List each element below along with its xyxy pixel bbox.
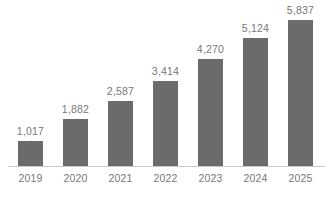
bar[interactable] [198, 59, 223, 166]
x-tick-label: 2019 [8, 172, 53, 184]
bar-group: 5,124 [233, 0, 278, 167]
bar[interactable] [18, 141, 43, 166]
bars-layer: 1,017 1,882 2,587 3,414 4,270 5,124 [0, 0, 333, 167]
bar-value-label: 5,837 [278, 4, 323, 16]
bar-group: 5,837 [278, 0, 323, 167]
bar-group: 2,587 [98, 0, 143, 167]
plot-area: 1,017 1,882 2,587 3,414 4,270 5,124 [0, 0, 333, 197]
bar-value-label: 1,017 [8, 125, 53, 137]
bar-value-label: 5,124 [233, 22, 278, 34]
bar[interactable] [243, 38, 268, 166]
x-tick-label: 2020 [53, 172, 98, 184]
bar-value-label: 4,270 [188, 43, 233, 55]
bar-group: 3,414 [143, 0, 188, 167]
x-tick-label: 2021 [98, 172, 143, 184]
x-tick-label: 2025 [278, 172, 323, 184]
x-tick-label: 2022 [143, 172, 188, 184]
bar-value-label: 2,587 [98, 85, 143, 97]
bar[interactable] [63, 119, 88, 166]
bar-group: 1,882 [53, 0, 98, 167]
bar-chart: 1,017 1,882 2,587 3,414 4,270 5,124 [0, 0, 333, 197]
bar[interactable] [108, 101, 133, 166]
bar[interactable] [288, 20, 313, 166]
bar-group: 4,270 [188, 0, 233, 167]
bar[interactable] [153, 81, 178, 166]
x-axis-tick-labels: 2019 2020 2021 2022 2023 2024 2025 [0, 170, 333, 197]
x-tick-label: 2024 [233, 172, 278, 184]
bar-value-label: 1,882 [53, 103, 98, 115]
bar-value-label: 3,414 [143, 65, 188, 77]
bar-group: 1,017 [8, 0, 53, 167]
x-tick-label: 2023 [188, 172, 233, 184]
x-axis-line [8, 166, 325, 167]
